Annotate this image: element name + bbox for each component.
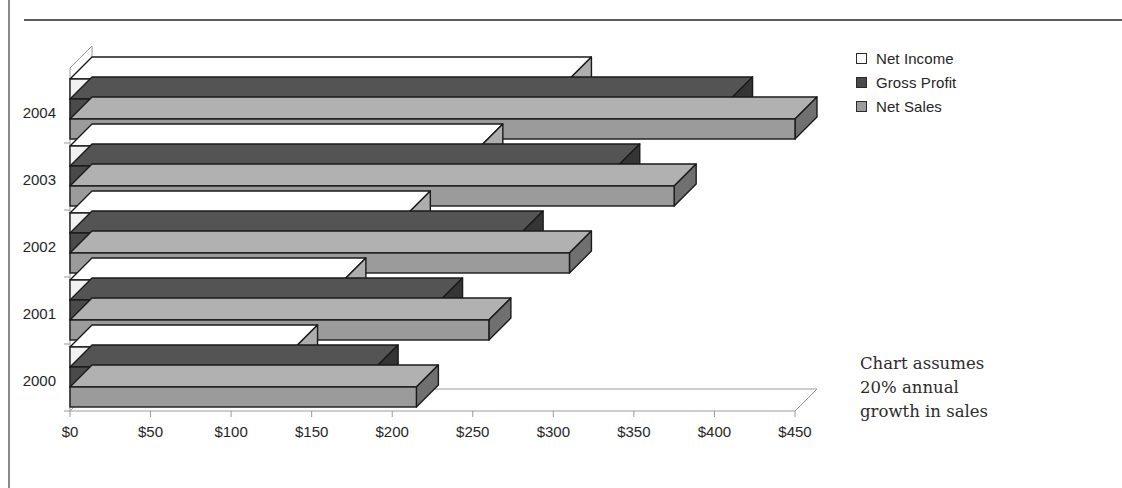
legend-label-net-income: Net Income	[876, 50, 954, 67]
y-axis-category-label: 2003	[23, 171, 56, 188]
legend-swatch-net-sales-icon	[856, 101, 867, 112]
x-axis-tick-label: $150	[295, 423, 328, 440]
annotation-line-1: Chart assumes	[860, 352, 1090, 376]
y-axis-category-label: 2001	[23, 305, 56, 322]
chart-annotation: Chart assumes 20% annual growth in sales	[860, 352, 1090, 424]
chart-legend: Net Income Gross Profit Net Sales	[856, 46, 1066, 118]
x-axis-tick-label: $200	[376, 423, 409, 440]
legend-label-net-sales: Net Sales	[876, 98, 942, 115]
x-axis-tick-label: $300	[537, 423, 570, 440]
x-axis-tick-label: $0	[62, 423, 79, 440]
y-axis-category-label: 2002	[23, 238, 56, 255]
chart-page: $0$50$100$150$200$250$300$350$400$450200…	[0, 0, 1122, 488]
bar-net-sales-2000[interactable]	[70, 365, 438, 407]
page-top-rule	[24, 19, 1122, 21]
x-axis-tick-label: $250	[456, 423, 489, 440]
x-axis-tick-label: $100	[214, 423, 247, 440]
legend-item-net-income[interactable]: Net Income	[856, 46, 1066, 70]
legend-item-net-sales[interactable]: Net Sales	[856, 94, 1066, 118]
annotation-line-3: growth in sales	[860, 400, 1090, 424]
annotation-line-2: 20% annual	[860, 376, 1090, 400]
legend-label-gross-profit: Gross Profit	[876, 74, 956, 91]
bar-chart: $0$50$100$150$200$250$300$350$400$450200…	[0, 28, 840, 440]
x-axis-tick-label: $50	[138, 423, 163, 440]
x-axis-tick-label: $350	[617, 423, 650, 440]
y-axis-category-label: 2004	[23, 104, 56, 121]
legend-swatch-gross-profit-icon	[856, 77, 867, 88]
y-axis-category-label: 2000	[23, 372, 56, 389]
legend-swatch-net-income-icon	[856, 53, 867, 64]
legend-item-gross-profit[interactable]: Gross Profit	[856, 70, 1066, 94]
x-axis-tick-label: $400	[698, 423, 731, 440]
chart-plot-area: $0$50$100$150$200$250$300$350$400$450200…	[0, 28, 840, 440]
x-axis-tick-label: $450	[778, 423, 811, 440]
